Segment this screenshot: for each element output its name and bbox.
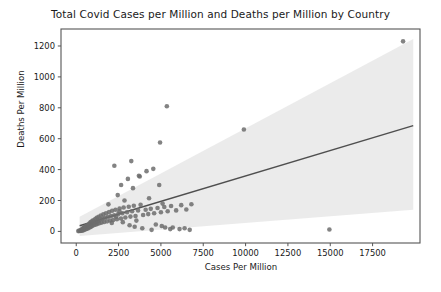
x-tick-label: 0 [74, 248, 79, 258]
x-tick-label: 12500 [275, 248, 302, 258]
chart-figure: Total Covid Cases per Million and Deaths… [0, 0, 441, 292]
x-axis-label: Cases Per Million [61, 262, 421, 272]
y-tick-label: 800 [0, 103, 55, 113]
y-tick-label: 600 [0, 134, 55, 144]
y-tick-label: 1200 [0, 41, 55, 51]
x-tick-label: 2500 [108, 248, 129, 258]
x-tick-label: 17500 [359, 248, 386, 258]
y-tick-label: 1000 [0, 72, 55, 82]
x-tick-label: 10000 [232, 248, 259, 258]
y-tick-label: 0 [0, 226, 55, 236]
y-tick-label: 200 [0, 196, 55, 206]
x-tick-label: 7500 [193, 248, 214, 258]
y-tick-label: 400 [0, 165, 55, 175]
x-tick-label: 15000 [317, 248, 344, 258]
x-tick-label: 5000 [150, 248, 171, 258]
